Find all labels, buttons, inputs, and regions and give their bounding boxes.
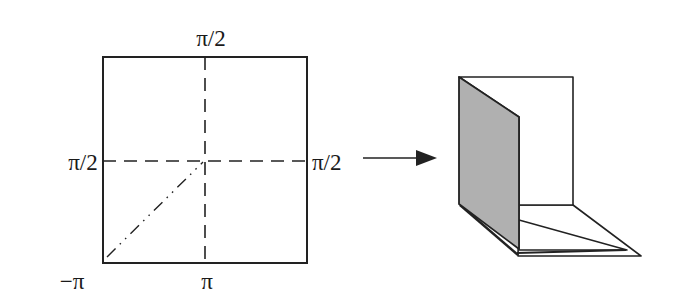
label-top: π/2 xyxy=(196,26,226,51)
arrowhead-icon xyxy=(416,150,437,166)
diagonal-dash-dot-line xyxy=(107,162,203,257)
label-right: π/2 xyxy=(312,150,342,175)
label-bottom-center: π xyxy=(201,269,213,294)
square-domain: π/2 π/2 π/2 −π π xyxy=(60,26,342,294)
folded-paper-3d xyxy=(459,77,641,256)
label-bottom-left: −π xyxy=(60,269,85,294)
label-left: π/2 xyxy=(68,150,98,175)
fold-diagram: π/2 π/2 π/2 −π π xyxy=(0,0,679,304)
maps-to-arrow xyxy=(363,150,437,166)
